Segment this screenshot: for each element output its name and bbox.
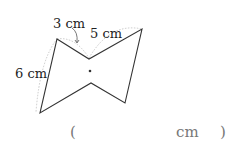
label-6cm: 6 cm [15, 66, 47, 81]
open-paren: ( [70, 123, 76, 141]
close-paren: ) [220, 123, 226, 141]
label-5cm: 5 cm [90, 26, 122, 41]
label-3cm: 3 cm [53, 16, 85, 31]
center-dot [89, 70, 92, 73]
unit-label: cm [176, 123, 199, 141]
